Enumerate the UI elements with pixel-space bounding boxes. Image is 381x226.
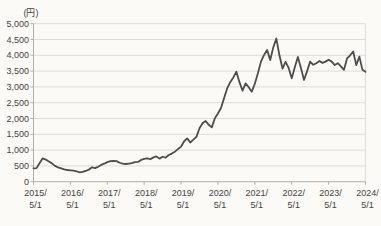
x-tick-label-year: 2019/ — [172, 188, 195, 198]
y-tick-label: 3,000 — [6, 82, 29, 92]
x-tick-label-day: 5/1 — [287, 200, 300, 210]
x-tick-label-year: 2022/ — [282, 188, 305, 198]
price-line — [34, 39, 366, 173]
x-tick-label-year: 2021/ — [246, 188, 269, 198]
x-tick-label-year: 2015/ — [24, 188, 47, 198]
x-tick-label-day: 5/1 — [324, 200, 337, 210]
y-tick-label: 0 — [24, 177, 29, 187]
x-tick-label-year: 2018/ — [135, 188, 158, 198]
gridlines — [34, 24, 366, 182]
price-line-series — [34, 39, 366, 173]
x-tick-label-year: 2020/ — [209, 188, 232, 198]
y-axis-unit-label: (円) — [24, 8, 39, 18]
x-tick-label-day: 5/1 — [177, 200, 190, 210]
x-tick-label-day: 5/1 — [361, 200, 374, 210]
y-tick-label: 2,500 — [6, 98, 29, 108]
x-tick-label-day: 5/1 — [103, 200, 116, 210]
y-tick-label: 2,000 — [6, 114, 29, 124]
stock-price-chart-container: (円) 05001,0001,5002,0002,5003,0003,5004,… — [0, 0, 381, 226]
x-tick-label-day: 5/1 — [251, 200, 264, 210]
x-tick-label-day: 5/1 — [29, 200, 42, 210]
x-tick-label-day: 5/1 — [214, 200, 227, 210]
x-tick-label-day: 5/1 — [140, 200, 153, 210]
axes — [31, 24, 366, 185]
y-tick-label: 5,000 — [6, 19, 29, 29]
price-chart: (円) 05001,0001,5002,0002,5003,0003,5004,… — [0, 0, 381, 226]
axis-labels: 05001,0001,5002,0002,5003,0003,5004,0004… — [6, 19, 379, 210]
y-tick-label: 1,500 — [6, 129, 29, 139]
y-tick-label: 1,000 — [6, 145, 29, 155]
y-tick-label: 4,000 — [6, 50, 29, 60]
x-tick-label-year: 2016/ — [61, 188, 84, 198]
y-tick-label: 500 — [14, 161, 29, 171]
y-tick-label: 3,500 — [6, 66, 29, 76]
x-tick-label-year: 2023/ — [319, 188, 342, 198]
x-tick-label-year: 2017/ — [98, 188, 121, 198]
x-tick-label-year: 2024/ — [356, 188, 379, 198]
x-tick-label-day: 5/1 — [66, 200, 79, 210]
y-tick-label: 4,500 — [6, 35, 29, 45]
